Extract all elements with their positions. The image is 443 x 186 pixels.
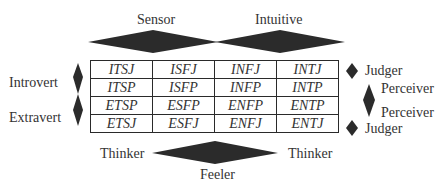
sensor-label: Sensor — [137, 12, 175, 28]
grid-row: ITSJ ISFJ INFJ INTJ — [91, 61, 339, 79]
grid-cell: ESFP — [153, 97, 215, 115]
thinker-right-label: Thinker — [288, 146, 332, 162]
grid-cell: INFJ — [215, 61, 277, 79]
judger-bottom-diamond-icon — [346, 120, 358, 136]
grid-row: ETSP ESFP ENFP ENTP — [91, 97, 339, 115]
grid-cell: ITSP — [91, 79, 153, 97]
intuitive-diamond-icon — [215, 30, 345, 53]
grid-row: ETSJ ESFJ ENFJ ENTJ — [91, 115, 339, 133]
personality-type-grid: ITSJ ISFJ INFJ INTJ ITSP ISFP INFP INTP … — [90, 60, 339, 133]
grid-cell: INTP — [277, 79, 339, 97]
grid-cell: ISFP — [153, 79, 215, 97]
grid-cell: ISFJ — [153, 61, 215, 79]
grid-cell: INFP — [215, 79, 277, 97]
grid-cell: ENTP — [277, 97, 339, 115]
introvert-label: Introvert — [9, 75, 58, 91]
judger-top-diamond-icon — [346, 63, 358, 79]
judger-top-label: Judger — [365, 63, 402, 79]
grid-cell: ITSJ — [91, 61, 153, 79]
perceiver-bottom-label: Perceiver — [381, 105, 434, 121]
grid-cell: ETSJ — [91, 115, 153, 133]
perceiver-diamond-icon — [363, 84, 375, 117]
introvert-diamond-icon — [73, 63, 83, 94]
intuitive-label: Intuitive — [255, 12, 302, 28]
sensor-diamond-icon — [88, 30, 218, 53]
feeler-label: Feeler — [200, 167, 235, 183]
thinker-left-label: Thinker — [100, 146, 144, 162]
extravert-label: Extravert — [9, 110, 61, 126]
grid-cell: ENTJ — [277, 115, 339, 133]
grid-cell: ENFJ — [215, 115, 277, 133]
grid-cell: ENFP — [215, 97, 277, 115]
judger-bottom-label: Judger — [365, 121, 402, 137]
feeler-diamond-icon — [152, 141, 278, 164]
grid-cell: ETSP — [91, 97, 153, 115]
grid-row: ITSP ISFP INFP INTP — [91, 79, 339, 97]
extravert-diamond-icon — [73, 94, 83, 126]
grid-cell: ESFJ — [153, 115, 215, 133]
perceiver-top-label: Perceiver — [381, 81, 434, 97]
grid-cell: INTJ — [277, 61, 339, 79]
